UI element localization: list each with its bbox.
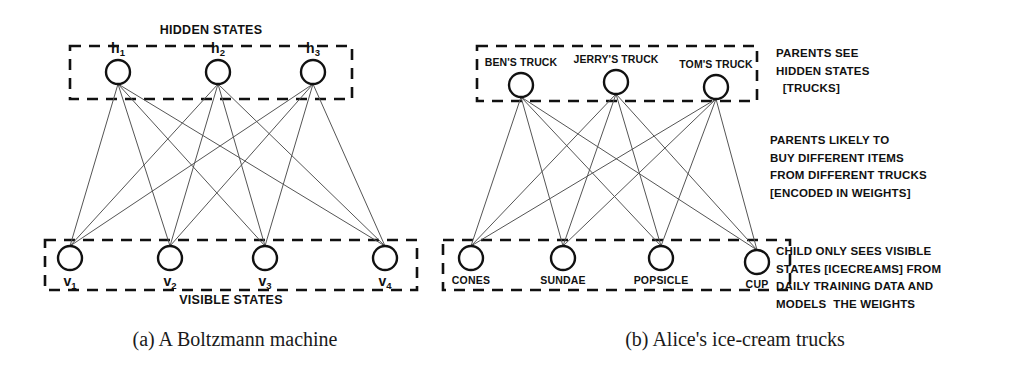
subscript: 1 [71, 280, 76, 291]
connection-edge [118, 84, 385, 246]
connection-edge [563, 94, 616, 246]
panel-a-hidden-states-title: HIDDEN STATES [70, 24, 352, 37]
subscript: 3 [266, 280, 271, 291]
connection-edge [661, 99, 716, 246]
connection-edge [170, 84, 218, 246]
visible-node-v3[interactable] [253, 246, 277, 270]
caption-panel-b: (b) Alice's ice-cream trucks [500, 328, 970, 351]
truck-node-jerry[interactable] [604, 70, 628, 94]
connection-edge [265, 84, 313, 246]
annotation-line: CHILD ONLY SEES VISIBLE [776, 243, 941, 261]
visible-node-v4[interactable] [373, 246, 397, 270]
annotation-line: MODELS THE WEIGHTS [776, 296, 941, 314]
subscript: 3 [315, 47, 320, 58]
subscript: 2 [171, 280, 176, 291]
annotation-line: PARENTS LIKELY TO [770, 132, 927, 150]
hidden-node-h3[interactable] [301, 60, 325, 84]
label-v1: v1 [45, 274, 95, 288]
icecream-label-cones: CONES [426, 275, 516, 286]
subscript: 2 [220, 47, 225, 58]
annotation-line: BUY DIFFERENT ITEMS [770, 150, 927, 168]
connection-edge [471, 94, 616, 246]
truck-label-tom: TOM'S TRUCK [666, 59, 766, 70]
truck-node-tom[interactable] [704, 75, 728, 99]
truck-label-ben: BEN'S TRUCK [471, 57, 571, 68]
icecream-label-sundae: SUNDAE [518, 275, 608, 286]
icecream-label-popsicle: POPSICLE [616, 275, 706, 286]
icecream-node-popsicle[interactable] [649, 246, 673, 270]
connection-edge [313, 84, 385, 246]
group-edges [70, 84, 757, 250]
label-v2: v2 [145, 274, 195, 288]
annotation-line: DAILY TRAINING DATA AND [776, 278, 941, 296]
annotation-line: STATES [ICECREAMS] FROM [776, 261, 941, 279]
annotation-line: FROM DIFFERENT TRUCKS [770, 167, 927, 185]
connection-edge [70, 84, 218, 246]
annotation-line: [ENCODED IN WEIGHTS] [770, 185, 927, 203]
label-h1: h1 [93, 41, 143, 55]
connection-edge [563, 99, 716, 246]
subscript: 1 [120, 47, 125, 58]
annotation-parents-buy-weights: PARENTS LIKELY TOBUY DIFFERENT ITEMSFROM… [770, 132, 927, 202]
hidden-node-h2[interactable] [206, 60, 230, 84]
caption-panel-a: (a) A Boltzmann machine [0, 328, 470, 351]
icecream-node-sundae[interactable] [551, 246, 575, 270]
label-h2: h2 [193, 41, 243, 55]
subscript: 4 [386, 280, 391, 291]
group-boxes [45, 46, 790, 290]
annotation-child-sees-visible: CHILD ONLY SEES VISIBLESTATES [ICECREAMS… [776, 243, 941, 313]
visible-node-v1[interactable] [58, 246, 82, 270]
connection-edge [616, 94, 661, 246]
connection-edge [70, 84, 118, 246]
annotation-parents-see-hidden: PARENTS SEEHIDDEN STATES [TRUCKS] [776, 45, 870, 98]
panel-a-visible-states-title: VISIBLE STATES [45, 294, 417, 307]
annotation-line: [TRUCKS] [776, 80, 870, 98]
annotation-line: PARENTS SEE [776, 45, 870, 63]
label-v3: v3 [240, 274, 290, 288]
figure-root: HIDDEN STATESVISIBLE STATESh1h2h3v1v2v3v… [0, 0, 1020, 377]
connection-edge [471, 99, 716, 246]
icecream-node-cones[interactable] [459, 246, 483, 270]
connection-edge [471, 97, 521, 246]
label-v4: v4 [360, 274, 410, 288]
icecream-node-cup[interactable] [745, 250, 769, 274]
hidden-node-h1[interactable] [106, 60, 130, 84]
annotation-line: HIDDEN STATES [776, 63, 870, 81]
label-h3: h3 [288, 41, 338, 55]
truck-node-ben[interactable] [509, 73, 533, 97]
truck-label-jerry: JERRY'S TRUCK [566, 54, 666, 65]
visible-node-v2[interactable] [158, 246, 182, 270]
